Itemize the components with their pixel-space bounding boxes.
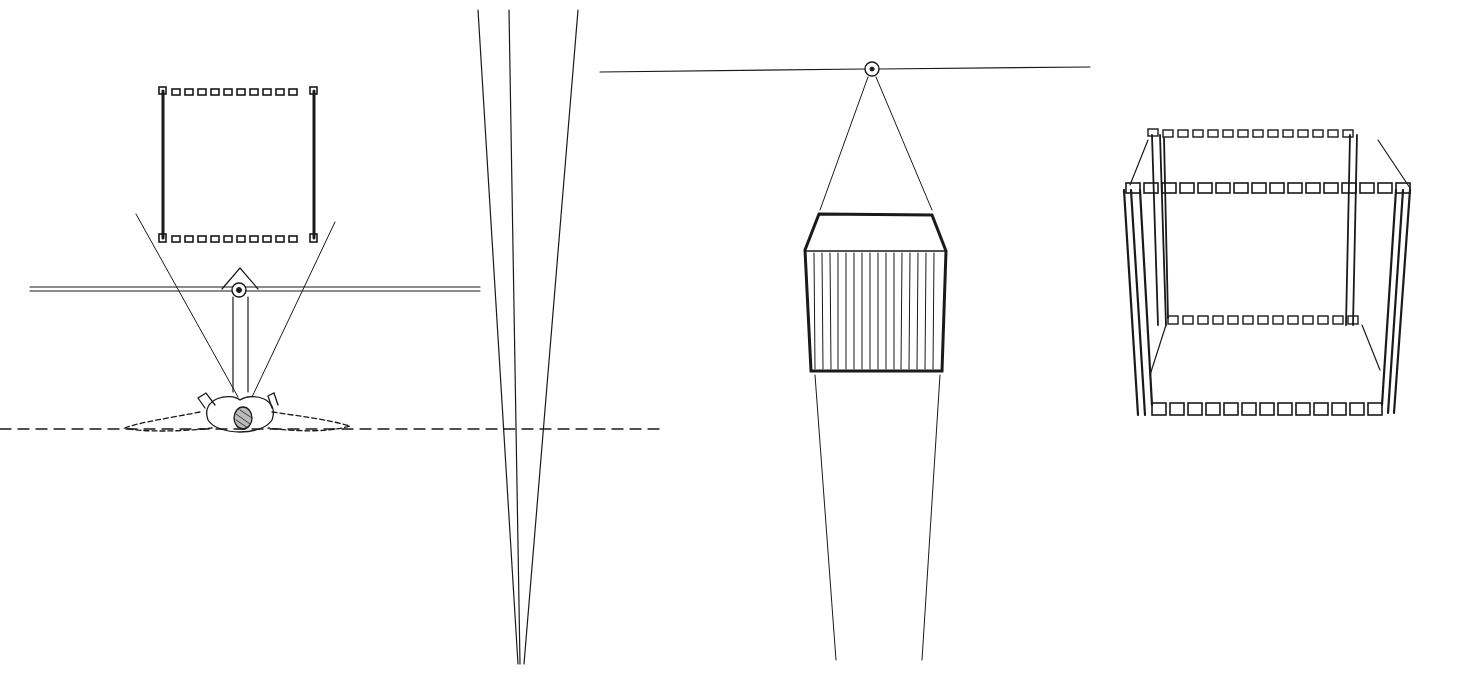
observer-figure [125,393,350,432]
converging-lines [478,10,578,664]
plan-view [0,87,660,432]
diagram-svg [0,0,1460,688]
frame-cube [1124,129,1410,415]
elevation-view [600,62,1090,660]
diagram-canvas [0,0,1460,688]
